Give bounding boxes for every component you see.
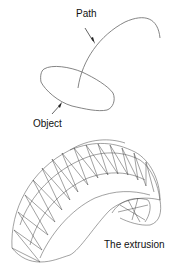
diagram-canvas bbox=[0, 0, 177, 275]
extrusion-label: The extrusion bbox=[104, 240, 165, 250]
object-outline bbox=[41, 66, 115, 110]
path-curve bbox=[78, 18, 160, 88]
object-label: Object bbox=[33, 119, 62, 129]
object-pointer-arrow bbox=[52, 102, 62, 114]
path-label: Path bbox=[76, 9, 97, 19]
path-pointer-arrow bbox=[85, 28, 95, 44]
